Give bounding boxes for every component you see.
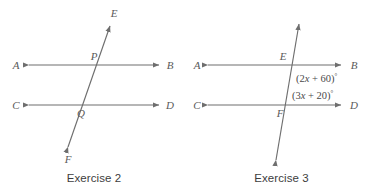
exercise-2-diagram: A B C D E F P Q — [0, 0, 188, 196]
label-point-e: E — [110, 7, 118, 19]
label-point-d: D — [165, 99, 174, 111]
label-point-a: A — [193, 59, 201, 71]
label-point-a: A — [12, 59, 20, 71]
label-point-f: F — [64, 153, 72, 165]
caption-exercise-2: Exercise 2 — [0, 172, 188, 184]
angle-label-upper: (2x + 60)° — [296, 72, 338, 85]
label-intersection-e: E — [279, 50, 287, 62]
label-point-b: B — [351, 59, 358, 71]
label-point-c: C — [193, 99, 201, 111]
label-intersection-p: P — [90, 50, 98, 62]
label-point-c: C — [12, 99, 20, 111]
transversal-ef — [68, 26, 110, 147]
angle-label-lower: (3x + 20)° — [292, 89, 334, 102]
figure-exercise-2: A B C D E F P Q Exercise 2 — [0, 0, 188, 196]
label-point-d: D — [349, 99, 358, 111]
caption-exercise-3: Exercise 3 — [188, 172, 375, 184]
exercise-3-diagram: A B C D E F (2x + 60)° (3x + 20)° — [188, 0, 375, 196]
label-point-b: B — [167, 59, 174, 71]
geometry-figure-page: A B C D E F P Q Exercise 2 — [0, 0, 375, 196]
label-intersection-q: Q — [77, 107, 85, 119]
figure-exercise-3: A B C D E F (2x + 60)° (3x + 20)° Exerci… — [188, 0, 375, 196]
label-intersection-f: F — [276, 107, 284, 119]
